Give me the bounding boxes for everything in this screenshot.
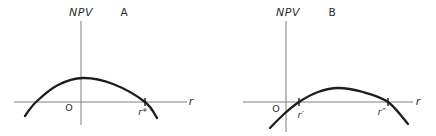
panel-letter-a: A [120,7,127,18]
intercept-label-r-double-prime: r″ [378,107,386,117]
x-axis-label-panel-b: r [416,96,421,107]
y-axis-label-panel-a: NPV [69,7,93,18]
y-axis-label-panel-b: NPV [276,7,300,18]
intercept-label-r-star: r* [138,107,148,117]
origin-label-panel-b: O [272,104,279,114]
x-axis-label-panel-a: r [189,96,194,107]
intercept-label-r-prime: r′ [297,110,304,120]
origin-label-panel-a: O [65,103,72,113]
npv-curve-b [270,88,408,128]
panel-letter-b: B [328,7,335,18]
curves-svg [0,0,436,136]
npv-figure: NPV A O r r* NPV B O r r′ r″ [0,0,436,136]
